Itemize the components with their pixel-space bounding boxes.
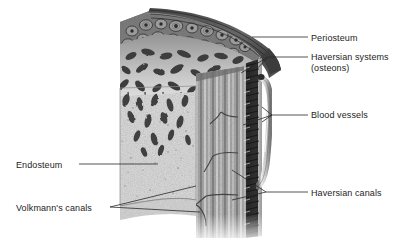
bottom-fade	[190, 214, 266, 248]
bristle-edge-region	[242, 56, 264, 240]
label-endosteum: Endosteum	[16, 160, 62, 171]
label-haversian-systems-line1: Haversian systems	[311, 52, 389, 62]
label-haversian-canals: Haversian canals	[311, 188, 382, 199]
label-periosteum: Periosteum	[311, 33, 358, 44]
label-haversian-systems: Haversian systems(osteons)	[311, 52, 389, 74]
lamellae-column-region	[194, 57, 248, 240]
label-volkmanns-canals: Volkmann's canals	[16, 203, 92, 214]
label-blood-vessels: Blood vessels	[311, 110, 368, 121]
label-haversian-systems-line2: (osteons)	[311, 63, 389, 74]
